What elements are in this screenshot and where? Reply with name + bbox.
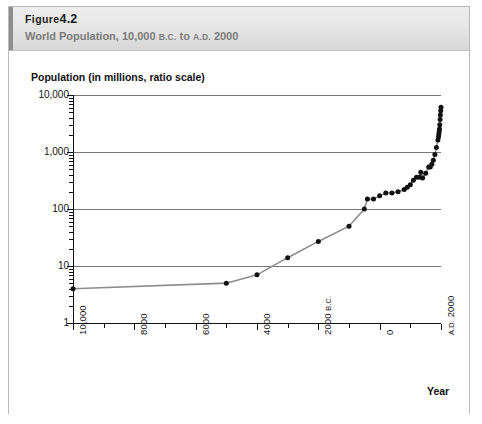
x-tick-major [73,324,74,330]
x-tick-major [134,324,135,330]
y-tick-label: 1,000 [9,146,69,157]
plot-area: 1101001,00010,000 10,0008000600040002000… [73,95,441,323]
y-axis-title: Population (in millions, ratio scale) [31,71,205,83]
data-point [423,171,428,176]
x-tick-major [380,324,381,330]
data-point [432,152,437,157]
figure-subtitle-main: World Population, 10,000 [25,30,156,42]
y-tick-label: 1 [9,317,69,328]
x-tick-minor [226,324,227,328]
figure-number-value: 4.2 [60,12,78,26]
x-tick-minor [104,324,105,328]
data-point [383,191,388,196]
x-tick-label: A.D. 2000 [445,296,456,335]
data-point [438,113,443,118]
data-point [255,272,260,277]
x-tick-minor [349,324,350,328]
figure-subtitle-era-bc: B.C. [159,32,177,42]
data-point [71,286,76,291]
figure-header-accent-rule [9,7,13,50]
x-tick-major [196,324,197,330]
x-tick-minor [288,324,289,328]
y-tick-label: 100 [9,203,69,214]
data-point [316,239,321,244]
data-point [439,105,444,110]
chart-body: Population (in millions, ratio scale) 11… [9,51,469,414]
data-point [434,145,439,150]
series-line [73,107,441,288]
data-point [437,127,442,132]
data-point [420,175,425,180]
figure-card: Figure4.2 World Population, 10,000 B.C. … [8,6,470,414]
figure-subtitle-era-ad: A.D. [193,32,211,42]
y-tick-label: 10,000 [9,89,69,100]
x-tick-minor [410,324,411,328]
data-point [347,224,352,229]
x-tick-label: 0 [384,330,395,335]
x-axis-title: Year [427,385,449,397]
figure-number-prefix: Figure [25,13,60,25]
figure-header: Figure4.2 World Population, 10,000 B.C. … [9,7,469,51]
data-point [431,158,436,163]
figure-subtitle-mid: to [180,30,190,42]
data-point [437,122,442,127]
data-point [418,170,423,175]
data-point [224,281,229,286]
x-tick-major [257,324,258,330]
figure-number: Figure4.2 [25,12,77,26]
data-point [389,191,394,196]
data-point [285,255,290,260]
figure-subtitle: World Population, 10,000 B.C. to A.D. 20… [25,30,238,42]
data-point [377,193,382,198]
population-series [73,95,441,324]
y-tick-label: 10 [9,260,69,271]
data-point [371,196,376,201]
data-point [408,182,413,187]
x-tick-major [441,324,442,330]
data-point [438,117,443,122]
data-point [362,207,367,212]
data-point [396,189,401,194]
x-tick-major [318,324,319,330]
x-tick-minor [165,324,166,328]
figure-subtitle-end: 2000 [214,30,238,42]
data-point [365,196,370,201]
